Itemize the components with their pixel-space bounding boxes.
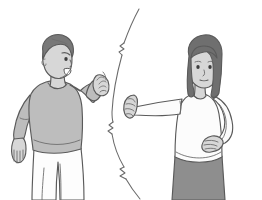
man-eye (64, 57, 67, 61)
woman-eye-left (196, 65, 199, 69)
illustration-svg: .ln { fill:none; stroke:#5a5a5a; stroke-… (0, 0, 262, 200)
woman-blouse-torso (175, 94, 222, 162)
illustration-canvas: .ln { fill:none; stroke:#5a5a5a; stroke-… (0, 0, 262, 200)
woman-eye-right (208, 65, 211, 69)
